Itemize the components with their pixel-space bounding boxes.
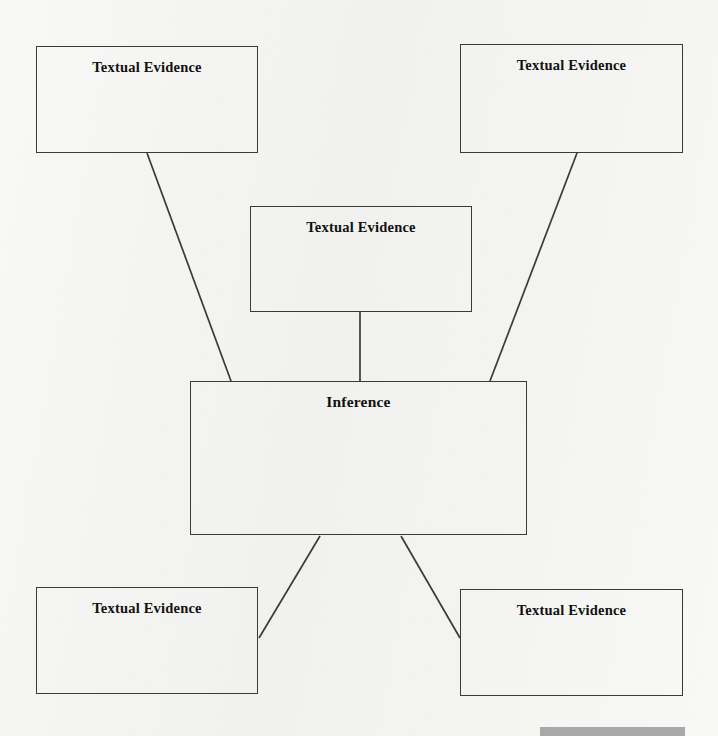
connector-top-left-to-inference (147, 153, 231, 381)
inference-box-label: Inference (191, 394, 526, 410)
connector-inference-to-bottom-right (401, 536, 460, 638)
inference-box[interactable]: Inference (190, 381, 527, 535)
evidence-box-top-right-label: Textual Evidence (461, 58, 682, 73)
evidence-box-top-left-label: Textual Evidence (37, 60, 257, 75)
evidence-box-middle-label: Textual Evidence (251, 220, 471, 235)
evidence-box-bottom-right[interactable]: Textual Evidence (460, 589, 683, 696)
connector-inference-to-bottom-left (259, 536, 320, 638)
evidence-box-bottom-left-label: Textual Evidence (37, 601, 257, 616)
evidence-box-bottom-right-label: Textual Evidence (461, 603, 682, 618)
evidence-box-top-left[interactable]: Textual Evidence (36, 46, 258, 153)
evidence-box-top-right[interactable]: Textual Evidence (460, 44, 683, 153)
diagram-canvas: Textual Evidence Textual Evidence Textua… (0, 0, 718, 736)
footer-gray-bar (540, 727, 685, 736)
evidence-box-middle[interactable]: Textual Evidence (250, 206, 472, 312)
connector-top-right-to-inference (490, 153, 577, 381)
evidence-box-bottom-left[interactable]: Textual Evidence (36, 587, 258, 694)
